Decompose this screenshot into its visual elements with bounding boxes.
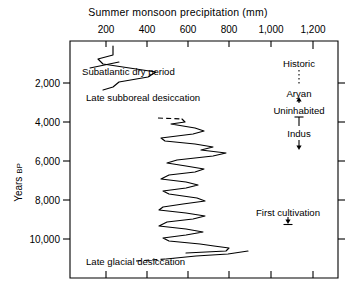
plot-frame bbox=[70, 41, 338, 278]
monsoon-precipitation-chart: Summer monsoon precipitation (mm) 200 40… bbox=[0, 0, 356, 294]
x-axis-ticks bbox=[106, 41, 313, 49]
subatlantic-leader-line bbox=[90, 62, 119, 68]
first-cultivation-arrow-head bbox=[285, 219, 290, 224]
y-axis-ticks-left bbox=[63, 83, 70, 239]
x-axis-ticks-bottom bbox=[106, 271, 313, 278]
aryan-up-arrow-head bbox=[296, 97, 301, 102]
late-glacial-dashed-segment bbox=[136, 259, 166, 261]
precipitation-curve-upper bbox=[98, 46, 156, 90]
indus-down-arrow-head bbox=[296, 145, 301, 150]
plot-area bbox=[0, 0, 356, 294]
culture-period-markers bbox=[284, 70, 304, 225]
y-axis-ticks-right bbox=[338, 83, 345, 239]
late-subboreal-dashed-segment bbox=[158, 118, 182, 119]
uninhabited-t-marker bbox=[295, 117, 304, 126]
precipitation-curve-main bbox=[159, 119, 229, 253]
